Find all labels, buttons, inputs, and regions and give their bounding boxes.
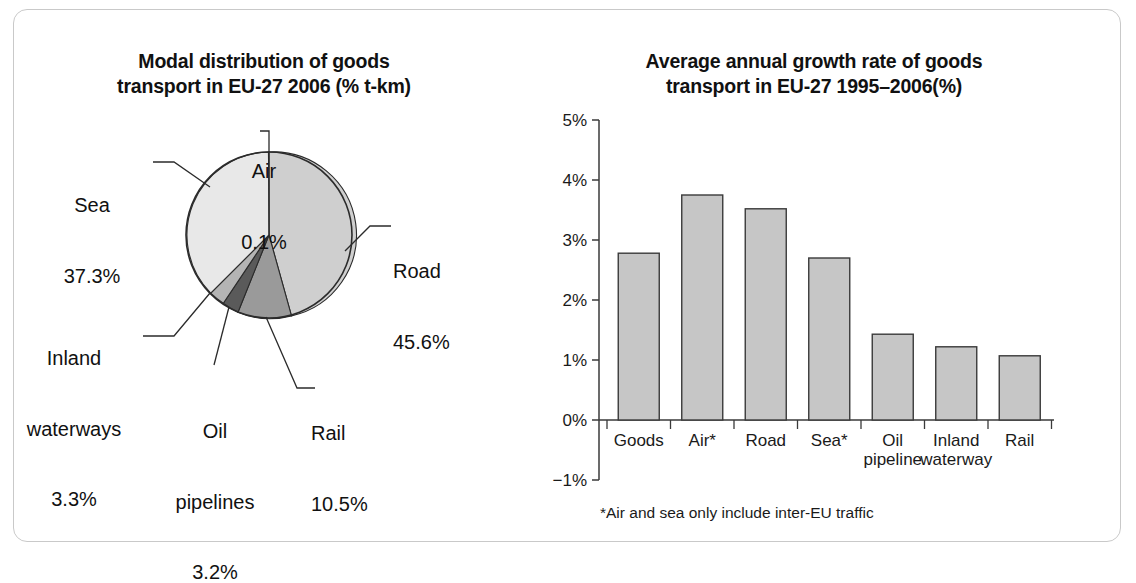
- y-axis-tick-label: 0%: [562, 411, 587, 430]
- bar-rail: [999, 356, 1040, 420]
- pie-label-air-name: Air: [194, 160, 334, 184]
- pie-label-road: Road 45.6%: [393, 213, 503, 401]
- pie-label-road-name: Road: [393, 260, 503, 284]
- bar-inland-waterway: [936, 347, 977, 420]
- x-axis-category-label: waterway: [919, 450, 992, 469]
- x-axis: GoodsAir*RoadSea*OilpipelineInlandwaterw…: [607, 420, 1052, 469]
- x-axis-category-label: Goods: [614, 431, 664, 450]
- pie-label-rail: Rail 10.5%: [311, 375, 421, 563]
- pie-label-inland-line-1: Inland: [6, 347, 142, 371]
- x-axis-category-label: Air*: [689, 431, 717, 450]
- pie-label-oil-line-1: Oil: [151, 420, 279, 444]
- bar-chart-panel: Average annual growth rate of goods tran…: [504, 10, 1136, 563]
- y-axis-tick-label: 4%: [562, 171, 587, 190]
- pie-label-inland-waterways: Inland waterways 3.3%: [6, 300, 142, 559]
- figure-frame: Modal distribution of goods transport in…: [13, 9, 1121, 542]
- x-axis-category-label: Oil: [882, 431, 903, 450]
- pie-label-road-value: 45.6%: [393, 331, 503, 355]
- x-axis-category-label: Rail: [1005, 431, 1034, 450]
- x-axis-category-label: Inland: [933, 431, 979, 450]
- pie-label-oil-pipelines: Oil pipelines 3.2%: [151, 373, 279, 583]
- pie-label-rail-value: 10.5%: [311, 493, 421, 517]
- y-axis-tick-label: 1%: [562, 351, 587, 370]
- bar-chart-footnote: *Air and sea only include inter-EU traff…: [600, 504, 874, 522]
- bar-goods: [618, 253, 659, 420]
- pie-label-sea-name: Sea: [32, 194, 152, 218]
- pie-label-inland-value: 3.3%: [6, 488, 142, 512]
- bars-group: [618, 195, 1040, 420]
- x-axis-category-label: pipeline: [863, 450, 922, 469]
- x-axis-category-label: Sea*: [811, 431, 848, 450]
- pie-label-sea-value: 37.3%: [32, 265, 152, 289]
- bar-air: [682, 195, 723, 420]
- y-axis-tick-label: 3%: [562, 231, 587, 250]
- y-axis-tick-label: −1%: [553, 471, 588, 490]
- leader-line-oil-pipelines: [214, 307, 229, 365]
- bar-chart-graphic: −1%0%1%2%3%4%5% GoodsAir*RoadSea*Oilpipe…: [504, 10, 1136, 563]
- y-axis-tick-label: 2%: [562, 291, 587, 310]
- pie-label-rail-name: Rail: [311, 422, 421, 446]
- pie-label-oil-value: 3.2%: [151, 561, 279, 583]
- bar-oil-pipeline: [872, 334, 913, 420]
- x-axis-category-label: Road: [745, 431, 786, 450]
- pie-label-air-value: 0.1%: [194, 231, 334, 255]
- bar-road: [745, 209, 786, 420]
- y-axis-tick-label: 5%: [562, 111, 587, 130]
- pie-label-oil-line-2: pipelines: [151, 491, 279, 515]
- pie-label-air: Air 0.1%: [194, 113, 334, 301]
- pie-chart-panel: Modal distribution of goods transport in…: [14, 10, 514, 563]
- bar-sea: [809, 258, 850, 420]
- pie-label-inland-line-2: waterways: [6, 418, 142, 442]
